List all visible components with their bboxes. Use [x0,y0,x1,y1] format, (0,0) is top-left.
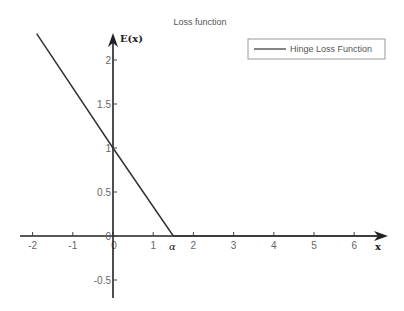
x-axis: x -2-10123456 [20,231,388,252]
y-axis: E(x) 21.510.50-0.5 [94,33,143,298]
legend-label: Hinge Loss Function [290,44,372,54]
x-tick-label: 5 [311,240,317,251]
x-tick-label: 2 [191,240,197,251]
y-tick-label: 1.5 [97,99,111,110]
x-tick-label: -1 [68,240,77,251]
x-tick-label: 0 [111,240,117,251]
y-axis-label: E(x) [120,33,143,44]
alpha-annotation: α [169,241,176,252]
y-tick-label: 0 [105,231,111,242]
x-tick-label: 6 [351,240,357,251]
y-tick-label: 0.5 [97,187,111,198]
legend: Hinge Loss Function [248,39,385,59]
y-tick-label: 2 [105,55,111,66]
x-tick-label: 3 [231,240,237,251]
hinge-loss-chart: Loss function x -2-10123456 E(x) 21.510.… [0,0,404,311]
x-axis-label: x [375,241,382,252]
x-tick-label: 4 [271,240,277,251]
chart-title: Loss function [173,17,226,27]
hinge-loss-line [37,34,379,236]
y-tick-label: -0.5 [94,275,112,286]
x-ticks: -2-10123456 [28,232,357,251]
x-tick-label: 1 [150,240,156,251]
x-tick-label: -2 [28,240,37,251]
